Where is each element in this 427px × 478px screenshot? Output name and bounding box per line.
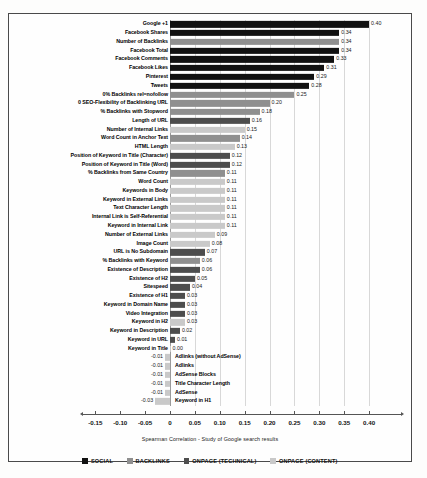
category-label: Sitespeed	[143, 285, 168, 290]
category-label: Video Integration	[126, 311, 168, 316]
category-label: Keyword in External Links	[103, 197, 168, 202]
bar-value-label: 0.04	[192, 285, 202, 290]
category-label: Keyword in Description	[110, 329, 168, 334]
legend-label: ONPAGE (TECHNICAL)	[192, 458, 256, 464]
bar-row: Facebook Shares0.34	[17, 29, 405, 38]
bar-row: AdSense-0.01	[17, 388, 405, 397]
bar-value-label: 0.03	[187, 293, 197, 298]
bar-value-label: 0.06	[202, 258, 212, 263]
bar-row: Number of Internal Links0.15	[17, 125, 405, 134]
bar	[170, 188, 225, 194]
bar-row: Existence of H20.05	[17, 274, 405, 283]
bar	[170, 118, 250, 124]
bar-row: Keywords in Body0.11	[17, 187, 405, 196]
bar-value-label: 0.03	[187, 311, 197, 316]
bar	[170, 311, 185, 317]
bar-value-label: 0.08	[212, 241, 222, 246]
category-label: Number of Internal Links	[107, 127, 168, 132]
category-label: Existence of H1	[129, 293, 168, 298]
bar-value-label: 0.28	[311, 83, 321, 88]
category-label: Keyword in H2	[132, 320, 168, 325]
bar-value-label: 0.02	[182, 329, 192, 334]
bar-value-label: 0.11	[227, 215, 237, 220]
bar-value-label: 0.18	[262, 109, 272, 114]
bar-value-label: 0.12	[232, 153, 242, 158]
bar	[170, 319, 185, 325]
legend-label: ONPAGE (CONTENT)	[279, 458, 338, 464]
bar-row: AdSense Blocks-0.01	[17, 371, 405, 380]
bar-row: Facebook Total0.34	[17, 46, 405, 55]
x-axis-tick	[369, 411, 370, 414]
bar	[170, 284, 190, 290]
bar	[170, 232, 215, 238]
chart-page: Google +10.40Facebook Shares0.34Number o…	[0, 0, 427, 478]
legend-item[interactable]: BACKLINKS	[127, 458, 170, 464]
bar-row: Keyword in Domain Name0.03	[17, 301, 405, 310]
plot-area: Google +10.40Facebook Shares0.34Number o…	[17, 20, 405, 406]
bar-value-label: 0.03	[187, 302, 197, 307]
bar-value-label: 0.09	[217, 232, 227, 237]
bar	[170, 135, 240, 141]
bar-row: % Backlinks with Stopword0.18	[17, 108, 405, 117]
category-label: URL is No Subdomain	[113, 250, 168, 255]
bar-value-label: -0.03	[141, 399, 153, 404]
bar-value-label: 0.15	[247, 127, 257, 132]
category-label: Existence of Description	[107, 267, 168, 272]
bar-row: Keyword in H20.03	[17, 318, 405, 327]
bar-value-label: 0.34	[341, 39, 351, 44]
bar-row: Keyword in URL0.01	[17, 336, 405, 345]
x-axis-tick-label: -0.10	[113, 419, 127, 426]
x-axis-right-arrow	[401, 412, 404, 416]
x-axis-tick-label: 0.25	[288, 419, 300, 426]
category-label: Position of Keyword in Title (Character)	[71, 153, 168, 158]
bar-value-label: 0.40	[371, 22, 381, 27]
bar	[170, 65, 324, 71]
bar-row: Keyword in Description0.02	[17, 327, 405, 336]
bar	[170, 328, 180, 334]
bar-row: Sitespeed0.04	[17, 283, 405, 292]
bar-value-label: -0.01	[151, 390, 163, 395]
bar-row: Adlinks-0.01	[17, 362, 405, 371]
bar	[170, 170, 225, 176]
bar-row: Keyword in H1-0.03	[17, 397, 405, 406]
bar-value-label: 0.11	[227, 188, 237, 193]
legend-item[interactable]: SOCIAL	[82, 458, 113, 464]
x-axis-tick	[195, 411, 196, 414]
category-label: Pinterest	[146, 74, 168, 79]
bar	[170, 249, 205, 255]
bar-value-label: 0.31	[326, 66, 336, 71]
bar-row: Position of Keyword in Title (Character)…	[17, 151, 405, 160]
category-label: Google +1	[143, 22, 168, 27]
bar-row: Adlinks (without AdSense)-0.01	[17, 353, 405, 362]
bar	[170, 56, 334, 62]
x-axis-left-arrow	[80, 412, 83, 416]
bar-row: Word Count in Anchor Text0.14	[17, 134, 405, 143]
bar	[170, 153, 230, 159]
bar	[165, 381, 170, 387]
bar-row: Position of Keyword in Title (Word)0.12	[17, 160, 405, 169]
bar-value-label: 0.06	[202, 267, 212, 272]
bar-value-label: 0.12	[232, 162, 242, 167]
bar	[170, 30, 339, 36]
category-label: Internal Link is Self-Referential	[92, 215, 168, 220]
category-label: HTML Length	[135, 144, 168, 149]
bar	[170, 144, 235, 150]
bar	[165, 363, 170, 369]
category-label: Keyword in URL	[128, 337, 168, 342]
bar-row: Length of URL0.16	[17, 116, 405, 125]
legend-item[interactable]: ONPAGE (TECHNICAL)	[184, 458, 257, 464]
bar-value-label: 0.29	[316, 74, 326, 79]
category-label: % Backlinks from Same Country	[88, 171, 168, 176]
x-axis-tick-label: 0.15	[239, 419, 251, 426]
bar-row: % Backlinks with Keyword0.06	[17, 257, 405, 266]
bar	[170, 91, 294, 97]
bar	[170, 223, 225, 229]
bar-row: Video Integration0.03	[17, 309, 405, 318]
bar	[170, 205, 225, 211]
bar-row: Image Count0.08	[17, 239, 405, 248]
legend-item[interactable]: ONPAGE (CONTENT)	[270, 458, 337, 464]
bar-value-label: -0.01	[151, 355, 163, 360]
bar-row: Word Count0.11	[17, 178, 405, 187]
category-label: AdSense	[175, 390, 197, 395]
x-axis-tick	[95, 411, 96, 414]
